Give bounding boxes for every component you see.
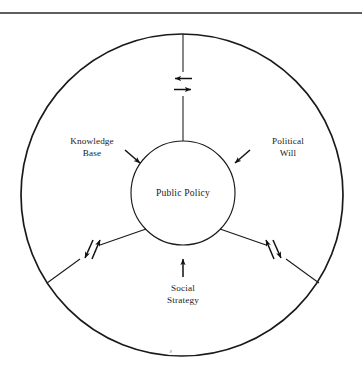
spoke-lower-left-arrow-inward-icon (92, 240, 100, 259)
knowledge-base-pointer-arrow-icon (125, 150, 140, 163)
political-will-pointer-arrow-icon (235, 150, 250, 163)
spoke-lower-right-arrow-outward-icon (273, 240, 281, 258)
spoke-lower-right-outer-segment (286, 259, 319, 283)
political-will-label-line1: Political (272, 136, 304, 146)
political-will-label-line2: Will (280, 148, 297, 158)
diagram-page: Public Policy Knowledge Base Political W… (0, 0, 362, 383)
spoke-lower-left-arrow-outward-icon (85, 240, 93, 258)
spoke-lower-left-inner-segment (100, 229, 146, 245)
spoke-lower-right-arrow-inward-icon (266, 240, 274, 259)
knowledge-base-label-line1: Knowledge (70, 136, 114, 146)
center-label: Public Policy (156, 187, 210, 198)
spoke-lower-right-inner-segment (220, 229, 266, 245)
spoke-lower-left-outer-segment (47, 259, 80, 283)
public-policy-diagram: Public Policy Knowledge Base Political W… (0, 0, 362, 383)
social-strategy-label-line1: Social (171, 283, 195, 293)
social-strategy-label-line2: Strategy (167, 295, 199, 305)
knowledge-base-label-line2: Base (83, 148, 101, 158)
scan-speck-artifact (169, 350, 172, 354)
